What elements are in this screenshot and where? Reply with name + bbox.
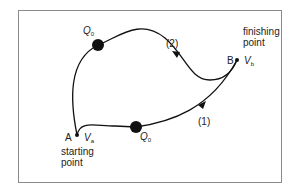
- finish-caption-line2: point: [243, 37, 265, 48]
- path-1-label: (1): [198, 116, 210, 127]
- charge-top-icon: [92, 39, 104, 51]
- charge-top-label: Q0: [83, 25, 94, 40]
- start-caption-line2: point: [61, 157, 83, 168]
- point-a-label: A: [65, 132, 72, 143]
- potential-b-label: Vb: [244, 55, 254, 70]
- arrow-path-2-icon: [172, 51, 180, 58]
- finish-caption-line1: finishing: [243, 26, 280, 37]
- charge-bottom-label: Q0: [140, 131, 151, 146]
- start-caption-line1: starting: [61, 146, 94, 157]
- path-2-label: (2): [166, 38, 178, 49]
- path-1-curve: [77, 60, 237, 135]
- potential-a-label: Va: [84, 132, 94, 147]
- point-b-label: B: [227, 55, 234, 66]
- point-b-dot: [235, 58, 239, 62]
- point-a-dot: [75, 133, 79, 137]
